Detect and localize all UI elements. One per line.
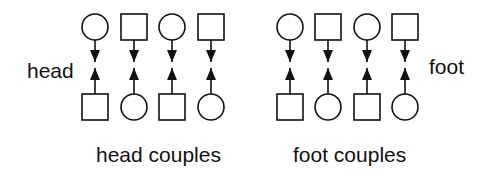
head-col4-bottom-circle-icon [198, 94, 224, 120]
head-col3-bottom-square-icon [159, 94, 185, 120]
foot-col3-bottom-arrow-up-icon [362, 68, 372, 94]
foot-col2-top-arrow-down-icon [323, 40, 333, 62]
foot-col3-top-arrow-down-icon [362, 40, 372, 62]
foot-col1-bottom-arrow-up-icon [285, 68, 295, 94]
foot-col4-bottom-circle-icon [392, 94, 418, 120]
foot-col1-bottom-square-icon [277, 94, 303, 120]
shape-layer [82, 14, 418, 120]
head-col1-bottom-arrow-up-icon [90, 68, 100, 94]
head-col3-bottom-arrow-up-icon [167, 68, 177, 94]
foot-col2-top-square-icon [315, 14, 341, 40]
head-col3-top-circle-icon [159, 14, 185, 40]
foot-col3-top-circle-icon [354, 14, 380, 40]
foot-label: foot [429, 56, 464, 77]
head-col1-bottom-square-icon [82, 94, 108, 120]
head-col3-top-arrow-down-icon [167, 40, 177, 62]
foot-col3-bottom-square-icon [354, 94, 380, 120]
formation-shapes [0, 0, 484, 176]
head-col4-top-square-icon [198, 14, 224, 40]
head-col1-top-circle-icon [82, 14, 108, 40]
head-couples-caption: head couples [96, 144, 221, 165]
foot-col4-top-square-icon [392, 14, 418, 40]
head-col2-bottom-arrow-up-icon [129, 68, 139, 94]
dance-formation-diagram: head foot head couples foot couples [0, 0, 484, 176]
head-label: head [27, 60, 74, 81]
head-col4-bottom-arrow-up-icon [206, 68, 216, 94]
head-col2-bottom-circle-icon [121, 94, 147, 120]
head-col1-top-arrow-down-icon [90, 40, 100, 62]
head-col2-top-square-icon [121, 14, 147, 40]
foot-col4-bottom-arrow-up-icon [400, 68, 410, 94]
foot-col2-bottom-circle-icon [315, 94, 341, 120]
foot-col1-top-circle-icon [277, 14, 303, 40]
foot-col4-top-arrow-down-icon [400, 40, 410, 62]
foot-couples-caption: foot couples [293, 144, 406, 165]
foot-col1-top-arrow-down-icon [285, 40, 295, 62]
head-col2-top-arrow-down-icon [129, 40, 139, 62]
head-col4-top-arrow-down-icon [206, 40, 216, 62]
foot-col2-bottom-arrow-up-icon [323, 68, 333, 94]
